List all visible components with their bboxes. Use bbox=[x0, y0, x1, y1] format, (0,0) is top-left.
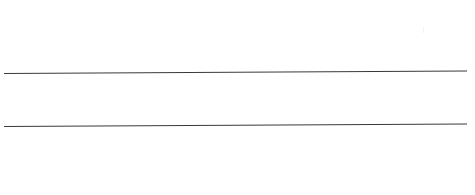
faint-artifact-mark bbox=[423, 27, 424, 33]
ruled-lines bbox=[0, 0, 475, 195]
writing-line-1 bbox=[4, 71, 467, 74]
writing-line-2 bbox=[4, 124, 467, 127]
